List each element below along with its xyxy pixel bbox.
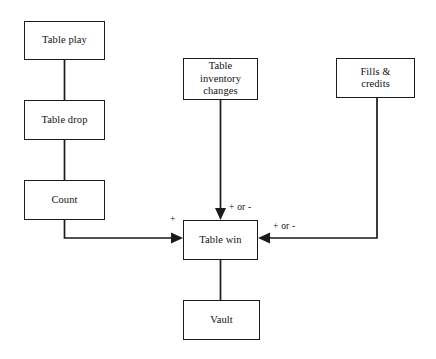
node-count[interactable]: Count	[24, 180, 105, 220]
edge-label-plus-left: +	[170, 215, 176, 225]
flow-diagram: Table play Table drop Count Table invent…	[0, 0, 436, 359]
connector-fills-credits-to-table-win	[267, 98, 377, 238]
connector-count-to-table-win	[65, 220, 175, 238]
node-table-play-label: Table play	[40, 34, 89, 46]
node-table-play[interactable]: Table play	[24, 21, 105, 60]
node-fills-and-credits[interactable]: Fills & credits	[336, 58, 415, 98]
node-table-win[interactable]: Table win	[183, 220, 258, 260]
node-table-drop[interactable]: Table drop	[24, 100, 105, 140]
edge-label-plus-or-minus-top: + or -	[229, 203, 251, 213]
arrowhead-count-to-table-win	[171, 233, 183, 244]
edge-label-plus-or-minus-right: + or -	[273, 222, 295, 232]
node-vault[interactable]: Vault	[183, 300, 260, 340]
node-table-inventory-changes-label: Table inventory changes	[198, 60, 243, 97]
node-table-inventory-changes[interactable]: Table inventory changes	[183, 58, 258, 100]
node-table-drop-label: Table drop	[39, 114, 89, 126]
node-vault-label: Vault	[208, 314, 235, 326]
arrowhead-fills-credits-to-table-win	[258, 233, 270, 244]
node-fills-and-credits-label: Fills & credits	[358, 66, 392, 91]
node-count-label: Count	[49, 194, 79, 206]
arrowhead-table-inventory-to-table-win	[215, 208, 226, 220]
node-table-win-label: Table win	[197, 234, 243, 246]
